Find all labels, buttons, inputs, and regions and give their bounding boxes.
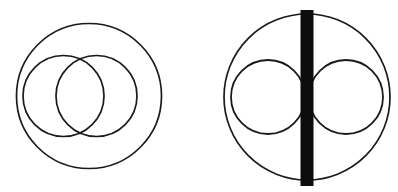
diagram-canvas	[0, 0, 398, 192]
right-center-vertical-bar	[301, 10, 314, 186]
